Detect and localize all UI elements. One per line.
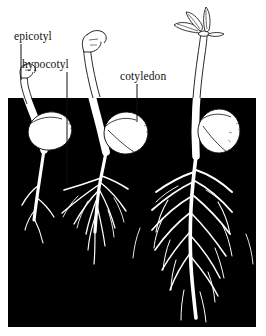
label-cotyledon: cotyledon	[120, 70, 166, 83]
label-hypocotyl: hypocotyl	[22, 58, 69, 71]
label-epicotyl: epicotyl	[14, 30, 52, 43]
figure-canvas: epicotyl hypocotyl cotyledon	[0, 0, 266, 336]
seedling-germination-figure: epicotyl hypocotyl cotyledon	[0, 0, 266, 336]
